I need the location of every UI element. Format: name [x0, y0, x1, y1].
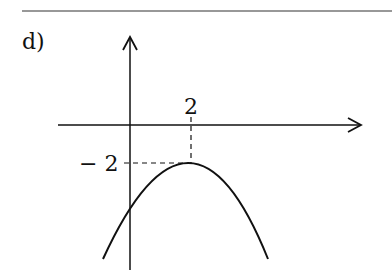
x-tick-label: 2: [184, 94, 198, 119]
parabola-curve: [103, 163, 268, 259]
y-tick-label: − 2: [79, 151, 118, 176]
part-label: d): [22, 29, 45, 54]
graph-figure: d) 2 − 2: [0, 0, 392, 275]
